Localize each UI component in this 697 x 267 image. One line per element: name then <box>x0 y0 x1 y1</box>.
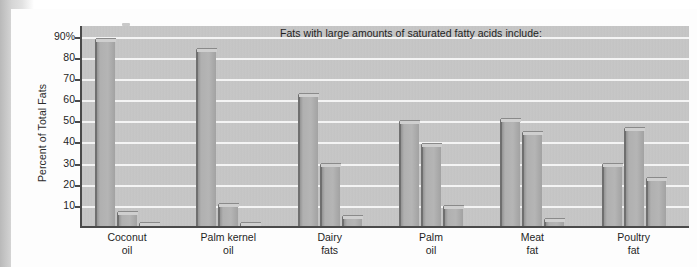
gridline <box>81 79 689 81</box>
bar-face <box>445 207 463 227</box>
y-axis-tick-labels: 90%8070605040302010 <box>23 26 75 227</box>
bar <box>320 164 340 227</box>
bar-top-cap <box>625 127 645 131</box>
bar-top-cap <box>545 218 565 222</box>
bar <box>602 164 622 227</box>
bar-top-cap <box>523 131 543 135</box>
figure-page: Percent of Total Fats 90%807060504030201… <box>0 0 697 267</box>
bar <box>522 132 542 227</box>
bar-top-cap <box>444 205 464 209</box>
plot-area <box>81 26 689 227</box>
bar <box>95 39 115 227</box>
bar-face <box>119 213 137 227</box>
y-axis-tick-label: 40 <box>31 135 75 147</box>
x-axis-category-label: Coconut oil <box>72 231 182 256</box>
bar <box>500 119 520 227</box>
bar-face <box>604 165 622 227</box>
bar-top-cap <box>501 118 521 122</box>
bar-face <box>322 165 340 227</box>
x-axis-category-label: Palm oil <box>376 231 486 256</box>
bar-top-cap <box>343 215 363 219</box>
bar-face <box>648 179 666 227</box>
bar <box>218 204 238 227</box>
x-axis-category-label: Dairy fats <box>275 231 385 256</box>
paper-texture <box>81 26 689 227</box>
bar-face <box>198 50 216 227</box>
y-axis-tick-label: 30 <box>31 157 75 169</box>
bar-face <box>300 95 318 227</box>
gridline <box>81 100 689 102</box>
chart-title: Fats with large amounts of saturated fat… <box>211 27 611 39</box>
bar-top-cap <box>647 177 667 181</box>
x-axis-category-label: Meat fat <box>477 231 587 256</box>
bar-top-cap <box>118 211 138 215</box>
gridline <box>81 206 689 208</box>
bar-top-cap <box>197 48 217 52</box>
bar-top-cap <box>400 120 420 124</box>
bar <box>624 128 644 227</box>
bar <box>298 94 318 227</box>
bar-face <box>423 145 441 227</box>
bar-top-cap <box>321 163 341 167</box>
bar-face <box>502 120 520 227</box>
y-axis-tick-label: 90% <box>31 30 75 42</box>
bar-top-cap <box>219 203 239 207</box>
bar-face <box>401 122 419 227</box>
bar <box>443 206 463 227</box>
y-axis-tick-label: 50 <box>31 114 75 126</box>
bar-face <box>524 133 542 227</box>
y-axis-tick-label: 60 <box>31 93 75 105</box>
gridline <box>81 142 689 144</box>
y-axis-tick-label: 20 <box>31 178 75 190</box>
y-axis-line <box>80 26 82 228</box>
y-axis-tick-label: 70 <box>31 72 75 84</box>
bar-top-cap <box>422 143 442 147</box>
gridline <box>81 164 689 166</box>
bar-face <box>626 129 644 227</box>
bar-top-cap <box>299 93 319 97</box>
bar-top-cap <box>96 38 116 42</box>
gridline <box>81 58 689 60</box>
bar <box>646 178 666 227</box>
x-axis-category-label: Poultry fat <box>579 231 689 256</box>
gridline <box>81 185 689 187</box>
gridline <box>81 121 689 123</box>
bar-face <box>220 205 238 227</box>
y-axis-tick-label: 10 <box>31 199 75 211</box>
bar-top-cap <box>603 163 623 167</box>
y-axis-tick-label: 80 <box>31 51 75 63</box>
bar <box>399 121 419 227</box>
bar-face <box>97 40 115 227</box>
x-axis-category-label: Palm kernel oil <box>173 231 283 256</box>
x-axis-line <box>80 226 689 228</box>
bar <box>117 212 137 227</box>
figure-card: Percent of Total Fats 90%807060504030201… <box>11 9 697 267</box>
bar <box>421 144 441 227</box>
bar <box>196 49 216 227</box>
